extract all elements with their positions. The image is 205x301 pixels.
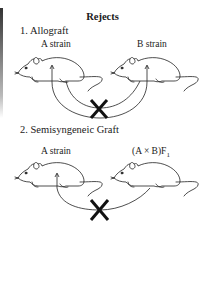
mouse-a-strain-1 [15, 58, 102, 92]
mouse-a-strain-2 [15, 163, 102, 197]
diagram-graphics [0, 0, 205, 301]
mouse-b-strain [111, 58, 198, 92]
mouse-f1-hybrid [111, 163, 198, 197]
rejection-x-icon-1 [91, 100, 107, 118]
